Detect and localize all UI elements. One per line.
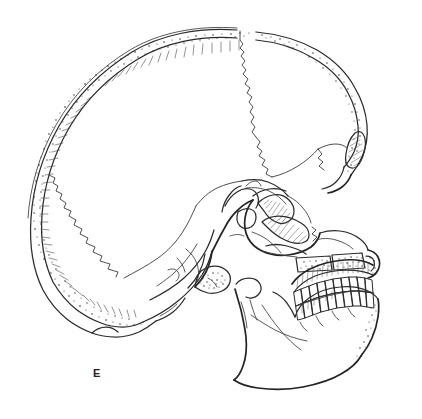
panel-label-E: E bbox=[93, 367, 101, 379]
skull-sagittal-section-illustration: E bbox=[0, 0, 422, 419]
figure-root: E bbox=[0, 0, 422, 419]
canvas-background bbox=[0, 0, 422, 419]
